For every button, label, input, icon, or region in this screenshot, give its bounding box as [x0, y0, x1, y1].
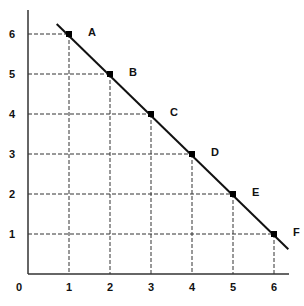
- data-point-f: [271, 231, 277, 237]
- y-tick-1: 1: [9, 228, 15, 240]
- data-point-c: [148, 111, 154, 117]
- point-label-b: B: [129, 66, 137, 78]
- data-point-b: [107, 71, 113, 77]
- x-tick-5: 5: [230, 281, 236, 293]
- point-label-e: E: [252, 186, 259, 198]
- guide-lines: [28, 34, 274, 274]
- data-point-d: [189, 151, 195, 157]
- y-tick-5: 5: [9, 68, 15, 80]
- point-label-a: A: [88, 26, 96, 38]
- x-tick-4: 4: [189, 281, 196, 293]
- data-point-e: [230, 191, 236, 197]
- y-tick-2: 2: [9, 188, 15, 200]
- x-tick-1: 1: [66, 281, 72, 293]
- x-tick-0: 0: [16, 281, 22, 293]
- point-label-f: F: [293, 226, 300, 238]
- point-label-d: D: [211, 146, 219, 158]
- data-line: [57, 24, 289, 249]
- y-tick-labels: 123456: [9, 28, 16, 240]
- y-tick-4: 4: [9, 108, 16, 120]
- chart: 0123456 123456 ABCDEF: [0, 0, 304, 306]
- x-tick-3: 3: [148, 281, 154, 293]
- x-tick-6: 6: [271, 281, 277, 293]
- y-tick-3: 3: [9, 148, 15, 160]
- data-point-a: [66, 31, 72, 37]
- point-labels: ABCDEF: [88, 26, 300, 238]
- x-tick-labels: 0123456: [16, 281, 277, 293]
- point-label-c: C: [170, 106, 178, 118]
- x-tick-2: 2: [107, 281, 113, 293]
- demand-line: [57, 24, 289, 249]
- y-tick-6: 6: [9, 28, 15, 40]
